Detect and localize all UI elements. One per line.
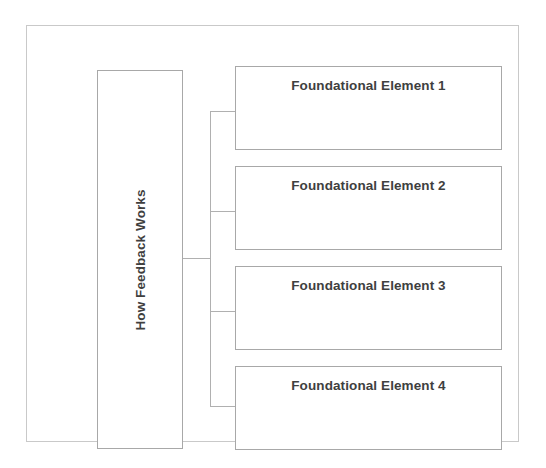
node-foundational-element-1[interactable]: Foundational Element 1: [235, 66, 502, 150]
connector-stub-element-3: [210, 311, 236, 312]
node-label-foundational-element-4: Foundational Element 4: [236, 378, 501, 393]
node-label-foundational-element-3: Foundational Element 3: [236, 278, 501, 293]
root-node-label: How Feedback Works: [133, 189, 148, 330]
node-label-foundational-element-2: Foundational Element 2: [236, 178, 501, 193]
diagram-outer-frame: How Feedback Works Foundational Element …: [26, 25, 519, 442]
connector-stub-element-2: [210, 211, 236, 212]
diagram-canvas: How Feedback Works Foundational Element …: [0, 0, 546, 468]
node-label-foundational-element-1: Foundational Element 1: [236, 78, 501, 93]
node-foundational-element-4[interactable]: Foundational Element 4: [235, 366, 502, 450]
connector-root-to-trunk: [183, 258, 211, 259]
connector-stub-element-1: [210, 111, 236, 112]
node-foundational-element-2[interactable]: Foundational Element 2: [235, 166, 502, 250]
connector-trunk-vertical: [210, 111, 211, 407]
root-node-how-feedback-works[interactable]: How Feedback Works: [97, 70, 183, 449]
connector-stub-element-4: [210, 406, 236, 407]
node-foundational-element-3[interactable]: Foundational Element 3: [235, 266, 502, 350]
